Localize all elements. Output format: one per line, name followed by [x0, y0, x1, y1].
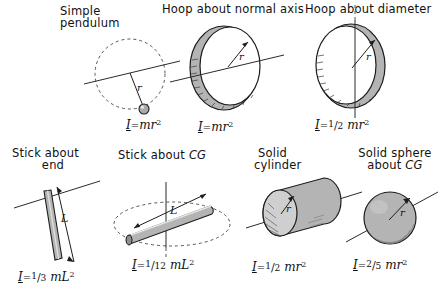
formula-body: mr	[139, 118, 156, 132]
formula-stick-about-cg: I=1/12 mL2	[132, 258, 194, 272]
pendulum-bob	[139, 104, 149, 114]
formula-exponent: 2	[364, 118, 369, 127]
formula-body: mr	[211, 120, 228, 134]
sphere-highlight	[370, 200, 388, 214]
formula-solid-cylinder: I=1/2 mr2	[252, 260, 306, 274]
formula-exponent: 2	[402, 258, 407, 267]
formula-equals: =	[257, 262, 265, 273]
caption-solid-cylinder-line2: cylinder	[254, 160, 324, 172]
pendulum-bob-highlight	[141, 106, 144, 109]
formula-solid-sphere: I=2/5 mr2	[353, 258, 407, 272]
formula-fraction: 1/3	[31, 271, 46, 284]
caption-hoop-normal-axis: Hoop about normal axis	[162, 4, 290, 16]
formula-exponent: 2	[189, 258, 194, 267]
formula-hoop-diameter: I=1/2 mr2	[315, 118, 369, 132]
stick-end-length-label: L	[60, 212, 68, 225]
formula-fraction: 1/2	[328, 119, 343, 132]
formula-hoop-normal-axis: I=mr2	[198, 120, 233, 134]
hoop-body	[190, 26, 260, 110]
formula-exponent: 2	[70, 270, 75, 279]
caption-stick-end-line2: end	[12, 160, 94, 172]
stick-end-rod	[44, 190, 62, 260]
length-arrowhead-left	[134, 223, 140, 228]
formula-body: mL	[170, 258, 189, 272]
stick-end-axis-line	[14, 181, 100, 208]
formula-equals: =	[320, 120, 328, 131]
formula-body: mr	[284, 260, 301, 274]
hoop-inner-ellipse	[316, 26, 376, 104]
formula-fraction-denominator: 3	[41, 273, 47, 283]
formula-simple-pendulum: I=mr2	[126, 118, 161, 132]
caption-stick-cg: Stick about CG	[118, 150, 238, 162]
hoop-inner-ellipse	[200, 27, 260, 105]
formula-equals: =	[203, 122, 211, 133]
diagram-hoop-normal-axis: r	[162, 20, 290, 120]
stick-cg-length-label: L	[169, 204, 177, 217]
formula-stick-about-end: I=1/3 mL2	[18, 270, 75, 284]
pendulum-radius-label: r	[137, 82, 143, 93]
formula-fraction-denominator: 2	[338, 121, 344, 131]
caption-stick-cg-abbrev: CG	[189, 148, 206, 162]
formula-fraction-denominator: 5	[376, 261, 382, 271]
formula-body: mr	[347, 118, 364, 132]
diagram-stick-about-end: L	[4, 174, 114, 269]
caption-stick-cg-text: Stick about	[118, 148, 185, 162]
diagram-hoop-diameter: r	[305, 18, 431, 120]
formula-fraction-denominator: 12	[155, 261, 166, 271]
formula-body: mr	[385, 258, 402, 272]
diagram-solid-sphere: r	[346, 174, 445, 258]
formula-fraction-denominator: 2	[275, 263, 281, 273]
formula-equals: =	[131, 120, 139, 131]
formula-fraction: 1/2	[265, 261, 280, 274]
hoop-body	[316, 24, 385, 108]
caption-solid-sphere-cg-abbrev: CG	[405, 158, 422, 172]
caption-solid-sphere-about: about	[367, 158, 401, 172]
formula-fraction: 1/12	[145, 259, 166, 272]
moments-of-inertia-figure: Simple pendulum r I=mr2 Hoop about norma…	[0, 0, 445, 291]
caption-hoop-diameter: Hoop about diameter	[305, 4, 431, 16]
caption-solid-sphere-line2: about CG	[350, 160, 440, 172]
formula-exponent: 2	[156, 118, 161, 127]
length-arrowhead-right	[200, 194, 206, 199]
formula-equals: =	[358, 260, 366, 271]
diagram-stick-about-cg: L	[110, 172, 240, 262]
formula-equals: =	[137, 260, 145, 271]
formula-exponent: 2	[228, 120, 233, 129]
stick-cg-rod-endcap	[126, 235, 132, 245]
formula-exponent: 2	[301, 260, 306, 269]
cylinder-body	[263, 178, 341, 236]
formula-body: mL	[50, 270, 69, 284]
formula-fraction: 2/5	[366, 259, 381, 272]
formula-equals: =	[23, 272, 31, 283]
